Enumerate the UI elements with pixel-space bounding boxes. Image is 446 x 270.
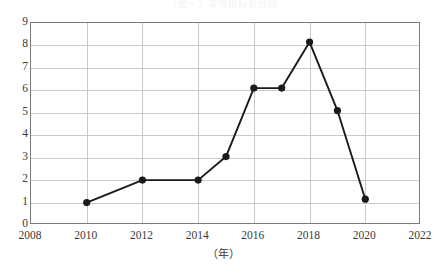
x-axis-tick-label: 2016 xyxy=(230,229,276,241)
clipped-top-caption: （图一）某项指标折线图 xyxy=(0,0,446,9)
x-axis-tick-label: 2014 xyxy=(174,229,220,241)
y-axis-tick-label: 3 xyxy=(6,151,28,163)
series-line-group xyxy=(31,23,421,225)
y-axis-tick-label: 8 xyxy=(6,38,28,50)
y-axis-tick-label: 7 xyxy=(6,61,28,73)
y-axis-tick-label: 2 xyxy=(6,173,28,185)
x-axis-tick-label: 2020 xyxy=(341,229,387,241)
data-point-marker xyxy=(334,107,341,114)
data-point-marker xyxy=(222,153,229,160)
x-axis-tick-label: 2010 xyxy=(63,229,109,241)
y-axis-tick-label: 4 xyxy=(6,128,28,140)
x-axis-tick-label: 2012 xyxy=(118,229,164,241)
x-axis-tick-label: 2018 xyxy=(286,229,332,241)
data-point-marker xyxy=(362,196,369,203)
plot-area xyxy=(30,22,420,224)
data-point-marker xyxy=(83,199,90,206)
line-chart-figure: （图一）某项指标折线图 0123456789 20082010201220142… xyxy=(0,0,446,270)
data-point-marker xyxy=(195,177,202,184)
series-line xyxy=(87,42,366,202)
y-axis-tick-label: 1 xyxy=(6,196,28,208)
y-axis-tick-label: 9 xyxy=(6,16,28,28)
x-axis-tick-label: 2022 xyxy=(397,229,443,241)
data-point-marker xyxy=(306,38,313,45)
data-point-marker xyxy=(139,177,146,184)
y-axis-tick-label: 6 xyxy=(6,83,28,95)
y-axis-tick-label: 0 xyxy=(6,218,28,230)
x-axis-unit-caption: （年） xyxy=(0,248,446,260)
data-point-marker xyxy=(278,84,285,91)
x-axis-tick-label: 2008 xyxy=(7,229,53,241)
y-axis-tick-label: 5 xyxy=(6,106,28,118)
data-point-marker xyxy=(250,84,257,91)
